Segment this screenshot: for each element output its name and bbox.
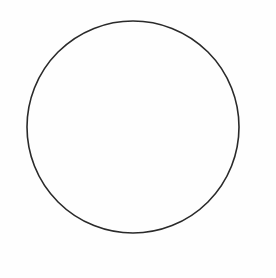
circle-shape <box>27 21 239 233</box>
diagram-canvas <box>0 0 276 278</box>
diagram-svg <box>0 0 276 278</box>
